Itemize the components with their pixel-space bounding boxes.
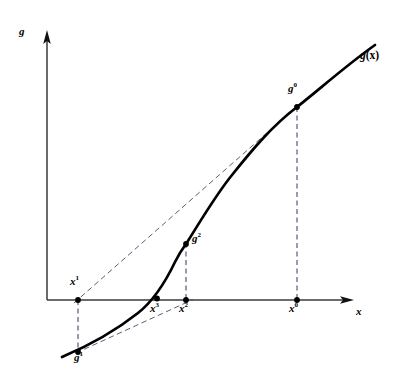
point-label-x2: x2 bbox=[179, 303, 188, 314]
figure-canvas bbox=[0, 0, 408, 375]
x-axis-label: x bbox=[356, 306, 362, 317]
curve-label-gx: g(x) bbox=[360, 50, 379, 62]
point-label-g1: g1 bbox=[74, 352, 83, 363]
point-marker-g2 bbox=[183, 241, 189, 247]
point-label-x0: x0 bbox=[289, 303, 298, 314]
point-label-g0: g0 bbox=[288, 83, 297, 94]
axes-group bbox=[43, 30, 354, 304]
point-label-g2: g2 bbox=[192, 233, 201, 244]
y-axis-label: g bbox=[19, 26, 25, 37]
point-markers-group bbox=[75, 104, 300, 355]
point-label-x3: x3 bbox=[150, 303, 159, 314]
dashed-secants-group bbox=[74, 102, 302, 353]
secant-method-figure: g x g(x) x1 x3 x2 x0 g1 g2 g0 bbox=[0, 0, 408, 375]
dashed-verticals-group bbox=[78, 108, 297, 353]
function-curve-gx bbox=[62, 45, 375, 357]
point-marker-g0 bbox=[294, 104, 300, 110]
secant-g1-g2-line bbox=[76, 300, 193, 354]
point-marker-x1 bbox=[75, 297, 81, 303]
point-label-x1: x1 bbox=[70, 276, 79, 287]
